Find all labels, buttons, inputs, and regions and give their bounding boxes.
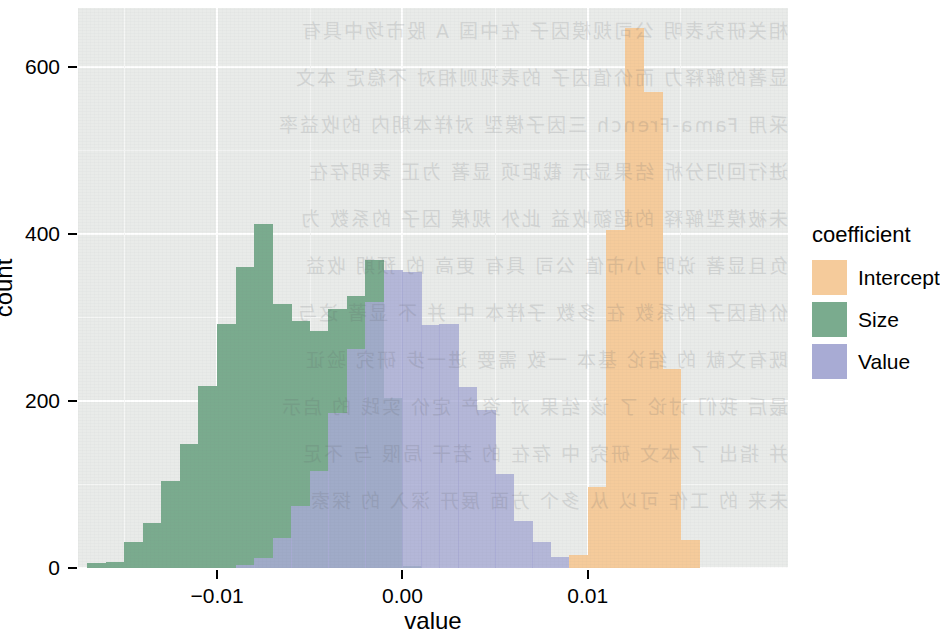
histogram-bar bbox=[662, 369, 681, 568]
histogram-bar bbox=[124, 542, 143, 568]
histogram-bar bbox=[477, 410, 496, 568]
x-axis-tick-mark bbox=[401, 570, 403, 579]
y-axis-tick-label: 400 bbox=[25, 222, 60, 246]
x-axis-tick-label: 0.01 bbox=[567, 584, 608, 608]
histogram-bar bbox=[291, 506, 310, 568]
histogram-bar bbox=[514, 521, 533, 568]
histogram-bar bbox=[328, 413, 347, 568]
histogram-bar bbox=[236, 267, 255, 568]
legend: coefficient InterceptSizeValue bbox=[812, 222, 940, 386]
histogram-bar bbox=[87, 563, 106, 568]
x-axis-tick-label: 0.00 bbox=[382, 584, 423, 608]
legend-item-label: Size bbox=[858, 308, 899, 332]
legend-color-swatch bbox=[812, 260, 847, 295]
histogram-bar bbox=[254, 558, 273, 568]
histogram-bar bbox=[680, 540, 699, 568]
legend-item-label: Intercept bbox=[858, 266, 940, 290]
legend-color-swatch bbox=[812, 344, 847, 379]
histogram-bar bbox=[625, 28, 644, 568]
histogram-bar bbox=[217, 324, 236, 568]
legend-items: InterceptSizeValue bbox=[812, 260, 940, 379]
histogram-bar bbox=[310, 471, 329, 568]
y-axis-tick-mark bbox=[68, 233, 77, 235]
y-axis-tick-mark bbox=[68, 66, 77, 68]
legend-item-label: Value bbox=[858, 350, 910, 374]
histogram-bar bbox=[551, 557, 570, 568]
histogram-bar bbox=[365, 302, 384, 568]
histogram-bar bbox=[273, 538, 292, 568]
histogram-bar bbox=[588, 487, 607, 568]
histogram-bar bbox=[384, 270, 403, 568]
histogram-bar bbox=[236, 565, 255, 568]
histogram-bar bbox=[569, 555, 588, 568]
legend-title: coefficient bbox=[812, 222, 940, 248]
histogram-bar bbox=[180, 444, 199, 568]
legend-color-swatch bbox=[812, 302, 847, 337]
histogram-bar bbox=[402, 272, 421, 568]
y-axis-tick-label: 0 bbox=[48, 556, 60, 580]
histogram-bar bbox=[458, 387, 477, 568]
histogram-bars bbox=[78, 8, 788, 568]
y-axis-tick-label: 200 bbox=[25, 389, 60, 413]
histogram-bar bbox=[161, 481, 180, 568]
histogram-bar bbox=[532, 542, 551, 568]
histogram-bar bbox=[495, 474, 514, 568]
y-axis-label: count bbox=[0, 259, 18, 318]
histogram-bar bbox=[106, 562, 125, 568]
x-axis-label: value bbox=[404, 607, 461, 635]
histogram-bar bbox=[347, 349, 366, 568]
legend-item: Size bbox=[812, 302, 940, 337]
plot-panel: 相关研究表明 公司规模因子 在中国 A 股市场中具有 显著的解释力 而价值因子 … bbox=[78, 8, 788, 568]
histogram-bar bbox=[643, 92, 662, 568]
histogram-bar bbox=[198, 386, 217, 568]
histogram-bar bbox=[273, 304, 292, 568]
histogram-bar bbox=[606, 230, 625, 568]
histogram-bar bbox=[439, 324, 458, 568]
x-axis-tick-label: −0.01 bbox=[190, 584, 243, 608]
x-axis-tick-mark bbox=[587, 570, 589, 579]
histogram-bar bbox=[254, 224, 273, 568]
chart-figure: 相关研究表明 公司规模因子 在中国 A 股市场中具有 显著的解释力 而价值因子 … bbox=[0, 0, 940, 641]
histogram-bar bbox=[143, 523, 162, 568]
legend-item: Value bbox=[812, 344, 940, 379]
y-axis-tick-label: 600 bbox=[25, 55, 60, 79]
y-axis-tick-mark bbox=[68, 567, 77, 569]
x-axis-tick-mark bbox=[216, 570, 218, 579]
legend-item: Intercept bbox=[812, 260, 940, 295]
y-axis-tick-mark bbox=[68, 400, 77, 402]
histogram-bar bbox=[421, 325, 440, 568]
